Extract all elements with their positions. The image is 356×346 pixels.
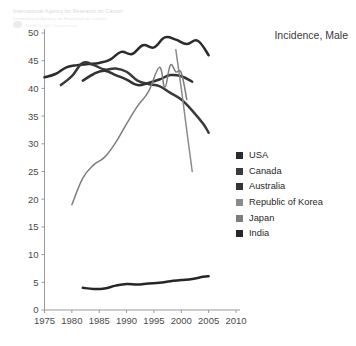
x-axis-ticks: 19751980198519901995200020052010 [34,310,247,326]
legend-item-canada[interactable]: Canada [236,164,354,180]
legend-item-republic-of-korea[interactable]: Republic of Korea [236,195,354,211]
legend-swatch-icon [236,230,243,237]
series-line-japan [72,64,187,204]
series-line-republic-of-korea [176,50,192,172]
legend-item-india[interactable]: India [236,226,354,242]
x-axis-tick-label: 1995 [143,315,164,326]
legend-label: Japan [249,214,274,223]
y-axis-tick-label: 20 [28,194,39,205]
y-axis-tick-label: 40 [28,83,39,94]
x-axis-tick-label: 1980 [61,315,82,326]
series-line-india [83,276,209,289]
legend-label: Australia [249,182,285,191]
legend-item-australia[interactable]: Australia [236,179,354,195]
legend-swatch-icon [236,152,243,159]
y-axis-tick-label: 0 [33,304,38,315]
legend-label: Canada [249,167,282,176]
axis-group [45,29,241,310]
legend-label: Republic of Korea [249,198,323,207]
legend-label: India [249,229,269,238]
legend-swatch-icon [236,168,243,175]
legend-swatch-icon [236,215,243,222]
y-axis-ticks: 05101520253035404550 [28,27,45,315]
chart-screenshot: International Agency for Research on Can… [0,0,356,346]
y-axis-tick-label: 25 [28,166,39,177]
x-axis-tick-label: 1990 [116,315,137,326]
legend-swatch-icon [236,199,243,206]
y-axis-tick-label: 45 [28,55,39,66]
series-line-australia [83,71,192,86]
data-series-group [45,37,209,289]
y-axis-tick-label: 15 [28,221,39,232]
x-axis-tick-label: 1985 [89,315,110,326]
x-axis-tick-label: 2010 [225,315,246,326]
chart-legend: USACanadaAustraliaRepublic of KoreaJapan… [236,148,354,242]
legend-label: USA [249,151,268,160]
legend-item-japan[interactable]: Japan [236,210,354,226]
y-axis-tick-label: 5 [33,277,38,288]
legend-swatch-icon [236,183,243,190]
y-axis-tick-label: 50 [28,27,39,38]
y-axis-tick-label: 35 [28,111,39,122]
legend-item-usa[interactable]: USA [236,148,354,164]
x-axis-tick-label: 1975 [34,315,55,326]
x-axis-tick-label: 2005 [198,315,219,326]
x-axis-tick-label: 2000 [171,315,192,326]
y-axis-tick-label: 30 [28,138,39,149]
y-axis-tick-label: 10 [28,249,39,260]
